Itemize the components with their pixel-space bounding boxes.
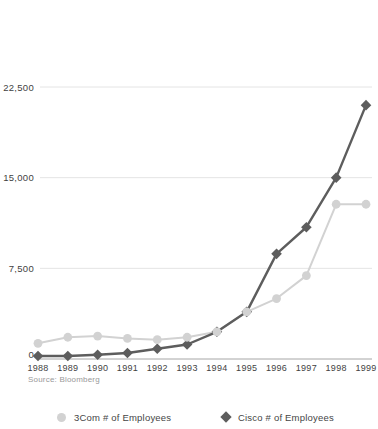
- x-tick-label: 1998: [326, 363, 347, 373]
- x-tick-label: 1996: [266, 363, 287, 373]
- legend-item-3com: 3Com # of Employees: [57, 408, 171, 426]
- legend-label-cisco: Cisco # of Employees: [238, 412, 334, 423]
- 3com-data-point: [93, 332, 102, 341]
- 3com-data-point: [153, 335, 162, 344]
- legend-item-cisco: Cisco # of Employees: [222, 408, 334, 426]
- 3com-data-point: [302, 271, 311, 280]
- 3com-data-point: [123, 334, 132, 343]
- cisco-data-point: [361, 100, 372, 111]
- 3com-line: [38, 204, 366, 343]
- chart-canvas: 07,50015,00022,5001988198919901991199219…: [0, 0, 378, 429]
- 3com-data-point: [362, 200, 371, 209]
- x-tick-label: 1989: [57, 363, 78, 373]
- x-tick-label: 1991: [117, 363, 138, 373]
- cisco-data-point: [331, 172, 342, 183]
- cisco-diamond-marker-icon: [220, 411, 231, 422]
- 3com-data-point: [332, 200, 341, 209]
- x-tick-label: 1995: [236, 363, 257, 373]
- cisco-data-point: [152, 343, 163, 354]
- cisco-data-point: [33, 351, 44, 362]
- x-tick-label: 1999: [355, 363, 376, 373]
- y-tick-label: 15,000: [3, 172, 34, 183]
- 3com-data-point: [213, 327, 222, 336]
- cisco-line: [38, 105, 366, 356]
- x-tick-label: 1992: [147, 363, 168, 373]
- legend: 3Com # of Employees Cisco # of Employees: [0, 408, 378, 426]
- 3com-data-point: [34, 339, 43, 348]
- source-note: Source: Bloomberg: [28, 375, 100, 384]
- 3com-data-point: [272, 294, 281, 303]
- y-tick-label: 7,500: [9, 263, 34, 274]
- 3com-data-point: [183, 333, 192, 342]
- 3com-data-point: [63, 333, 72, 342]
- x-tick-label: 1994: [206, 363, 227, 373]
- y-tick-label: 0: [28, 349, 34, 360]
- cisco-data-point: [63, 351, 74, 362]
- employees-line-chart: 07,50015,00022,5001988198919901991199219…: [0, 0, 378, 429]
- x-tick-label: 1997: [296, 363, 317, 373]
- cisco-data-point: [92, 349, 103, 360]
- cisco-data-point: [122, 348, 133, 359]
- y-tick-label: 22,500: [3, 82, 34, 93]
- legend-label-3com: 3Com # of Employees: [74, 412, 171, 423]
- x-tick-label: 1988: [27, 363, 48, 373]
- 3com-circle-marker-icon: [57, 413, 66, 422]
- x-tick-label: 1993: [176, 363, 197, 373]
- 3com-data-point: [242, 307, 251, 316]
- x-tick-label: 1990: [87, 363, 108, 373]
